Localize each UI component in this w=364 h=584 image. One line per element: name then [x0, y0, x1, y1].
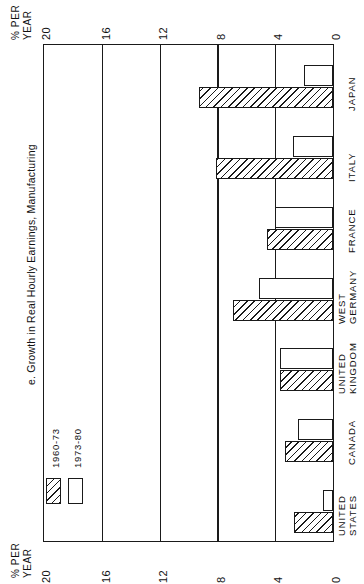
bar-france-1960-73 [267, 229, 333, 250]
gridline-12 [160, 45, 161, 541]
bottom-tick-0: 0 [330, 576, 342, 583]
bottom-axis-caption-line2: YEAR [22, 548, 34, 578]
bar-italy-1960-73 [216, 158, 333, 179]
bar-west-germany-1960-73 [233, 300, 333, 321]
bottom-axis-caption-line1: % PER [10, 543, 22, 578]
bar-united-states-1973-80 [323, 490, 333, 511]
category-label-united-kingdom: UNITEDKINGDOM [336, 343, 358, 395]
bar-united-kingdom-1973-80 [280, 348, 333, 369]
gridline-8 [217, 45, 218, 541]
bottom-tick-16: 16 [100, 570, 112, 583]
bottom-tick-12: 12 [157, 570, 169, 583]
chart-title: e. Growth in Real Hourly Earnings, Manuf… [26, 144, 37, 385]
category-label-west-germany: WESTGERMANY [336, 269, 358, 323]
legend-swatch-white [68, 478, 83, 504]
top-tick-16: 16 [100, 27, 112, 40]
legend-swatch-hatched [46, 478, 61, 504]
bar-japan-1960-73 [199, 87, 333, 108]
bar-italy-1973-80 [293, 136, 333, 157]
category-label-line: UNITED [336, 495, 347, 536]
bar-france-1973-80 [275, 207, 333, 228]
top-axis-caption-line2: YEAR [22, 10, 34, 40]
top-tick-4: 4 [272, 33, 284, 40]
category-label-line: GERMANY [347, 269, 358, 323]
category-label-line: WEST [336, 269, 347, 323]
legend-label-1973-80: 1973-80 [72, 428, 83, 468]
bottom-tick-8: 8 [215, 576, 227, 583]
category-label-united-states: UNITEDSTATES [336, 495, 358, 536]
category-label-line: KINGDOM [347, 343, 358, 395]
gridline-16 [102, 45, 103, 541]
top-axis-caption-line1: % PER [10, 5, 22, 40]
bottom-tick-4: 4 [272, 576, 284, 583]
top-tick-0: 0 [330, 33, 342, 40]
bar-japan-1973-80 [304, 65, 333, 86]
bottom-tick-20: 20 [40, 570, 52, 583]
legend-label-1960-73: 1960-73 [50, 428, 61, 468]
category-label-line: CANADA [346, 420, 357, 465]
category-label-japan: JAPAN [346, 77, 357, 111]
category-label-line: FRANCE [346, 208, 357, 252]
zero-baseline [333, 45, 335, 541]
chart-container: e. Growth in Real Hourly Earnings, Manuf… [0, 0, 364, 584]
bar-united-states-1960-73 [294, 512, 333, 533]
category-label-line: ITALY [346, 152, 357, 182]
bar-canada-1973-80 [298, 419, 333, 440]
category-label-line: UNITED [336, 343, 347, 395]
category-label-france: FRANCE [346, 208, 357, 252]
bar-canada-1960-73 [285, 441, 333, 462]
category-label-line: JAPAN [346, 77, 357, 111]
bar-united-kingdom-1960-73 [280, 370, 333, 391]
top-tick-20: 20 [40, 27, 52, 40]
plot-area [43, 44, 334, 542]
category-label-canada: CANADA [346, 420, 357, 465]
category-label-line: STATES [347, 495, 358, 536]
top-tick-12: 12 [157, 27, 169, 40]
bar-west-germany-1973-80 [259, 278, 333, 299]
top-tick-8: 8 [215, 33, 227, 40]
category-label-italy: ITALY [346, 152, 357, 182]
